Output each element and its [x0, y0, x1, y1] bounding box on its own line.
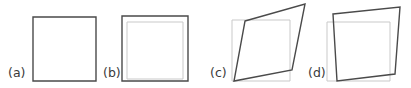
panel-d-label: (d)	[308, 66, 326, 80]
panel-d: (d)	[307, 0, 411, 88]
panel-a: (a)	[0, 0, 103, 88]
panel-c-shape	[234, 4, 305, 81]
panel-b-shape	[122, 16, 188, 81]
panel-b-label: (b)	[103, 66, 121, 80]
panel-b: (b)	[103, 0, 203, 88]
panel-c: (c)	[203, 0, 307, 88]
panel-c-label: (c)	[210, 66, 227, 80]
panel-b-reference-square	[127, 22, 183, 79]
shape-transformation-figure: (a) (b) (c) (d)	[0, 0, 411, 88]
panel-a-shape	[33, 17, 96, 81]
panel-a-label: (a)	[8, 66, 25, 80]
